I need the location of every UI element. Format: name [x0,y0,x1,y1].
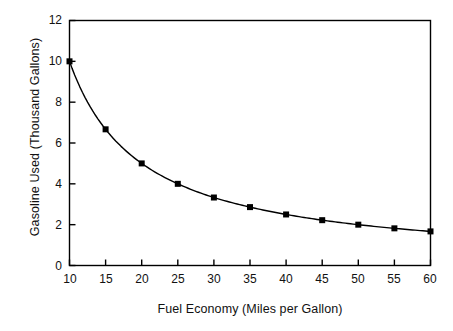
data-point-20 [139,160,145,166]
data-point-15 [103,126,109,132]
data-point-55 [391,225,397,231]
axis-frame [70,21,431,266]
data-point-60 [428,228,434,234]
plot-area [0,0,453,331]
data-point-50 [355,222,361,228]
y-tick-marks [70,21,76,266]
data-point-25 [175,181,181,187]
data-point-35 [247,204,253,210]
plot-frame [70,21,431,266]
data-point-40 [283,211,289,217]
data-point-45 [319,217,325,223]
x-tick-marks [70,260,431,266]
chart-figure: Gasoline Used (Thousand Gallons) Fuel Ec… [0,0,453,331]
data-point-30 [211,195,217,201]
data-point-10 [67,58,73,64]
